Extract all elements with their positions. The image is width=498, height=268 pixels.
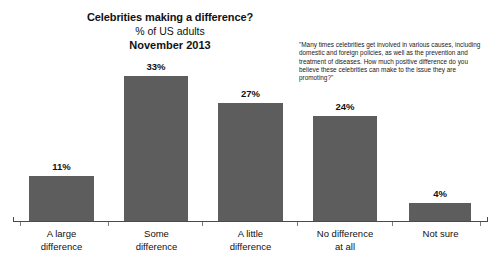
x-axis-tick — [108, 222, 109, 226]
bar-value-label: 4% — [409, 188, 471, 199]
bar — [29, 176, 94, 221]
bar — [218, 103, 283, 221]
x-axis-tick — [20, 222, 21, 226]
x-axis-left-cap — [13, 217, 14, 222]
x-axis-line — [13, 221, 487, 222]
category-label: Not sure — [393, 228, 488, 241]
category-label-line: difference — [203, 241, 298, 254]
plot-area: 11% A large difference 33% Some differen… — [0, 0, 498, 268]
bar — [124, 76, 188, 221]
category-label-line: No difference — [296, 228, 394, 241]
category-label-line: difference — [14, 241, 109, 254]
bar-value-label: 11% — [29, 161, 94, 172]
category-label: Some difference — [109, 228, 204, 253]
x-axis-tick — [297, 222, 298, 226]
bar-value-label: 33% — [124, 61, 188, 72]
x-axis-tick — [202, 222, 203, 226]
category-label-line: Not sure — [393, 228, 488, 241]
x-axis-right-cap — [487, 217, 488, 222]
x-axis-tick — [392, 222, 393, 226]
x-axis-tick — [480, 222, 481, 226]
bar — [313, 116, 377, 221]
category-label-line: A large — [14, 228, 109, 241]
category-label-line: Some — [109, 228, 204, 241]
category-label: A large difference — [14, 228, 109, 253]
category-label-line: at all — [296, 241, 394, 254]
bar-value-label: 27% — [218, 88, 283, 99]
bar-value-label: 24% — [313, 101, 377, 112]
category-label: No difference at all — [296, 228, 394, 253]
category-label-line: A little — [203, 228, 298, 241]
category-label-line: difference — [109, 241, 204, 254]
category-label: A little difference — [203, 228, 298, 253]
chart-screenshot: Celebrities making a difference? % of US… — [0, 0, 498, 268]
bar — [409, 203, 471, 221]
